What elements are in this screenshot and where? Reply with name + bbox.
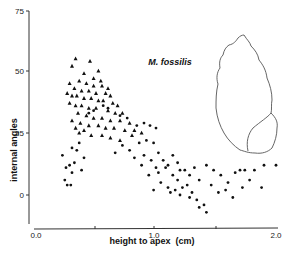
dot-point (121, 144, 124, 147)
triangle-point (106, 86, 110, 90)
dot-point (63, 179, 66, 182)
dot-point (65, 166, 68, 169)
dot-point (188, 196, 191, 199)
dot-point (133, 156, 136, 159)
dot-point (183, 169, 186, 172)
triangle-point (70, 94, 74, 98)
dot-point (145, 139, 148, 142)
triangle-point (89, 96, 93, 100)
triangle-point (104, 126, 108, 130)
triangle-point (100, 133, 104, 137)
triangle-point (78, 121, 82, 125)
triangle-point (116, 104, 120, 108)
triangle-point (118, 138, 122, 142)
triangle-point (94, 106, 98, 110)
triangle-point (87, 89, 91, 93)
dot-point (87, 112, 90, 115)
dot-point (260, 186, 263, 189)
dot-point (135, 124, 138, 127)
triangle-point (70, 64, 74, 68)
dot-point (69, 184, 72, 187)
triangle-point (84, 81, 88, 85)
x-tick-label-2.0: 2.0 (270, 231, 282, 240)
dot-point (179, 169, 182, 172)
dot-point (219, 174, 222, 177)
dot-point (171, 154, 174, 157)
triangle-point (104, 91, 108, 95)
triangle-point (87, 123, 91, 127)
dot-point (143, 122, 146, 125)
shell-outline-icon (216, 35, 277, 153)
dot-point (227, 181, 230, 184)
triangle-point (68, 81, 72, 85)
dot-point (217, 191, 220, 194)
dot-point (176, 161, 179, 164)
dot-point (212, 169, 215, 172)
y-tick-label-50: 50 (15, 67, 24, 76)
triangle-point (120, 111, 124, 115)
triangle-point (99, 79, 103, 83)
triangle-point (72, 86, 76, 90)
dot-point (186, 184, 189, 187)
triangle-point (80, 89, 84, 93)
dot-point (164, 166, 167, 169)
dot-point (205, 211, 208, 214)
dot-point (203, 204, 206, 207)
triangle-point (82, 96, 86, 100)
triangle-point (101, 99, 105, 103)
triangle-point (76, 111, 80, 115)
y-tick-label-75: 75 (15, 7, 24, 16)
dot-point (149, 124, 152, 127)
triangle-point (75, 94, 79, 98)
dot-point (263, 164, 266, 167)
triangle-point (82, 128, 86, 132)
dot-point (150, 159, 153, 162)
triangle-point (65, 91, 69, 95)
species-annotation: M. fossilis (148, 57, 192, 67)
dot-point (157, 171, 160, 174)
x-axis (34, 228, 278, 229)
triangle-point (88, 59, 92, 63)
dot-point (188, 174, 191, 177)
y-axis-label: internal angles (9, 118, 19, 182)
triangle-point (74, 56, 78, 60)
dot-point (174, 189, 177, 192)
triangle-point (87, 106, 91, 110)
dot-point (195, 199, 198, 202)
triangle-point (96, 123, 100, 127)
triangle-point (89, 133, 93, 137)
dot-point (191, 191, 194, 194)
triangle-point (80, 104, 84, 108)
dot-point (140, 164, 143, 167)
dot-point (143, 154, 146, 157)
triangle-point (128, 121, 132, 125)
dot-point (224, 189, 227, 192)
dot-point (162, 159, 165, 162)
dot-point (198, 206, 201, 209)
triangle-point (77, 79, 81, 83)
dot-point (248, 179, 251, 182)
dot-point (193, 166, 196, 169)
dot-point (71, 171, 74, 174)
dot-point (155, 166, 158, 169)
triangle-point (100, 84, 104, 88)
dot-point (241, 186, 244, 189)
dot-point (114, 151, 117, 154)
dot-point (147, 174, 150, 177)
triangle-point (112, 126, 116, 130)
x-tick-label-0.0: 0.0 (30, 231, 42, 240)
triangle-point (108, 136, 112, 140)
dot-point (128, 149, 131, 152)
dot-point (75, 149, 78, 152)
triangle-point (123, 128, 127, 132)
triangle-point (118, 118, 122, 122)
triangle-point (108, 118, 112, 122)
dot-point (66, 184, 69, 187)
dot-point (159, 181, 162, 184)
dot-point (152, 189, 155, 192)
triangle-point (96, 99, 100, 103)
dot-point (155, 127, 158, 130)
triangle-point (92, 76, 96, 80)
triangle-point (140, 131, 144, 135)
dot-point (157, 151, 160, 154)
